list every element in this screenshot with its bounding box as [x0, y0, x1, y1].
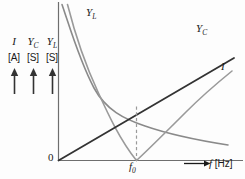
- x-axis-label: f [Hz]: [209, 157, 233, 169]
- legend-symbol-i: I: [12, 36, 16, 51]
- curve-y-c: [59, 58, 235, 161]
- x-tick-label-f0: f0: [129, 160, 136, 175]
- axis-origin-label: 0: [48, 151, 54, 163]
- legend-unit-i: [A]: [8, 52, 20, 64]
- legend-unit-y-l: [S]: [46, 52, 58, 64]
- legend-column-i: I [A]: [6, 36, 22, 94]
- legend-symbol-y-l: YL: [47, 36, 57, 51]
- curve-label-i: I: [221, 60, 225, 72]
- legend-symbol-y-c: YC: [27, 36, 38, 51]
- curve-label-y-l: YL: [86, 6, 96, 21]
- legend-column-y-c: YC [S]: [25, 36, 41, 94]
- curve-label-y-c: YC: [196, 22, 207, 37]
- legend: I [A] YC [S] YL [S]: [6, 36, 60, 94]
- legend-unit-y-c: [S]: [27, 52, 39, 64]
- legend-column-y-l: YL [S]: [44, 36, 60, 94]
- x-axis-arrow-icon: [184, 161, 211, 167]
- up-arrow-icon: [9, 68, 20, 94]
- up-arrow-icon: [47, 68, 58, 94]
- up-arrow-icon: [28, 68, 39, 94]
- curve-i: [68, 5, 233, 161]
- resonance-figure: I [A] YC [S] YL [S] YL YC I 0: [0, 0, 245, 179]
